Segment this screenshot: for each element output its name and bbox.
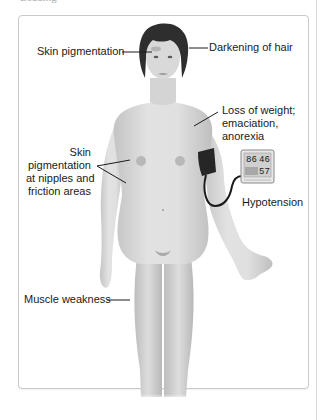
label-skin-pigmentation-body-line-2: pigmentation: [26, 159, 91, 172]
label-darkening-of-hair: Darkening of hair: [209, 41, 293, 54]
legs: [130, 250, 200, 400]
label-weight-loss: Loss of weight; emaciation, anorexia: [222, 104, 295, 143]
label-hypotension: Hypotension: [242, 196, 303, 209]
label-weight-loss-line-1: Loss of weight;: [222, 104, 295, 117]
label-skin-pigmentation-body-line-4: friction areas: [26, 185, 91, 198]
torso: [114, 102, 213, 264]
label-skin-pigmentation-body-line-3: at nipples and: [26, 172, 91, 185]
label-weight-loss-line-2: emaciation,: [222, 117, 295, 130]
label-skin-pigmentation-body-line-1: Skin: [26, 146, 91, 159]
label-weight-loss-line-3: anorexia: [222, 130, 295, 143]
head: [139, 24, 188, 79]
bp-systolic-reading: 86: [246, 154, 257, 167]
label-skin-pigmentation-face: Skin pigmentation: [37, 45, 124, 58]
anatomical-illustration: [0, 0, 326, 420]
bp-cuff: [198, 148, 216, 176]
neck: [150, 78, 176, 105]
label-skin-pigmentation-body: Skin pigmentation at nipples and frictio…: [26, 146, 91, 198]
label-muscle-weakness: Muscle weakness: [24, 293, 111, 306]
bp-pulse-reading: 57: [259, 166, 270, 179]
